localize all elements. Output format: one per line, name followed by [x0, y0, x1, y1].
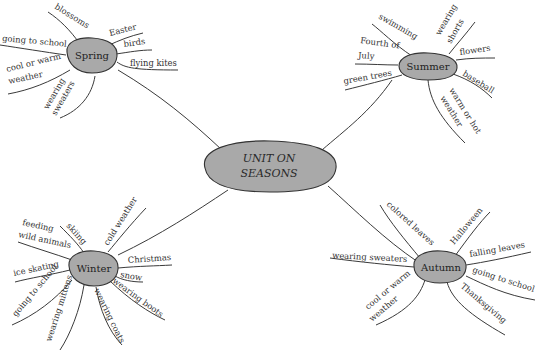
branch-summer: Summer swimming wearing shorts Fourth of… — [343, 2, 497, 143]
leaf-july: July — [357, 50, 375, 61]
winter-label: Winter — [77, 263, 112, 274]
connector-spring — [118, 70, 222, 150]
mind-map: UNIT ON SEASONS Spring blossoms Easter b… — [0, 0, 541, 358]
leaf-going-to-school: going to school — [471, 264, 536, 294]
branch-autumn: Autumn colored leaves Halloween falling … — [330, 199, 536, 335]
leaf-baseball: baseball — [461, 68, 497, 95]
leaf-swimming: swimming — [377, 11, 420, 42]
leaf-flying-kites: flying kites — [130, 58, 177, 68]
leaf-birds: birds — [123, 36, 146, 49]
leaf-christmas: Christmas — [127, 252, 171, 265]
summer-label: Summer — [407, 61, 450, 72]
leaf-falling-leaves: falling leaves — [469, 239, 526, 259]
branch-spring: Spring blossoms Easter birds flying kite… — [0, 1, 178, 118]
branch-winter: Winter feeding wild animals skiing cold … — [10, 195, 172, 350]
leaf-wearing-sweaters: wearing sweaters — [332, 250, 408, 264]
leaf-blossoms: blossoms — [53, 1, 91, 30]
leaf-green-trees: green trees — [343, 68, 393, 86]
center-node: UNIT ON SEASONS — [204, 141, 336, 192]
leaf-wild-animals: wild animals — [18, 229, 72, 250]
leaf-thanksgiving: Thanksgiving — [459, 281, 510, 326]
center-label-line1: UNIT ON — [243, 152, 296, 165]
autumn-label: Autumn — [420, 262, 462, 273]
leaf-fourth-of: Fourth of — [360, 35, 401, 51]
spring-label: Spring — [75, 50, 110, 61]
leaf-flowers: flowers — [459, 43, 491, 57]
center-label-line2: SEASONS — [240, 167, 298, 180]
leaf-cold-weather: cold weather — [101, 195, 139, 247]
connector-summer — [322, 80, 392, 150]
leaf-wearing-coats: wearing coats — [92, 286, 127, 344]
